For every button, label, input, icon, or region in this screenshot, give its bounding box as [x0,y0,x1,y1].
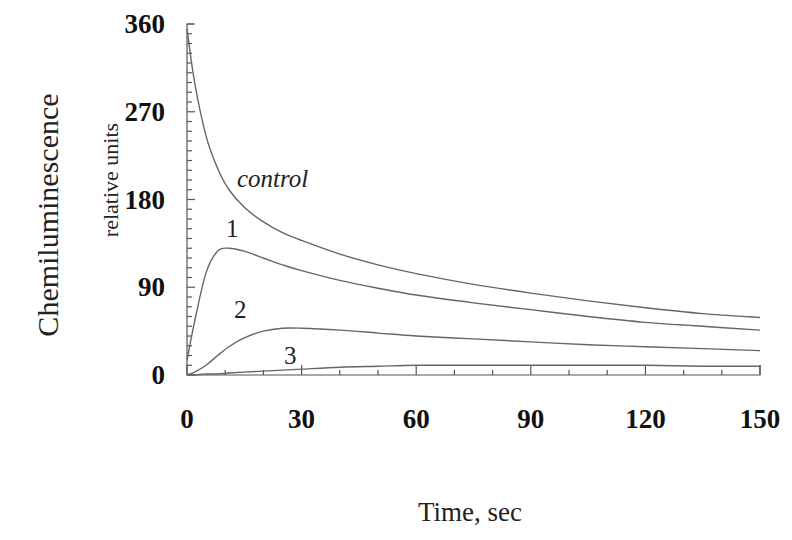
curve-1 [187,248,760,360]
curve-label-1: 1 [226,215,239,242]
x-tick-label: 30 [288,404,315,434]
curve-3 [187,365,760,375]
x-axis-label: Time, sec [418,497,522,527]
curve-label-2: 2 [234,296,247,323]
y-tick-label: 90 [138,272,165,302]
x-tick-label: 120 [625,404,666,434]
curve-2 [187,328,760,375]
x-tick-label: 0 [180,404,194,434]
y-tick-label: 180 [125,185,166,215]
axis-frame [187,24,760,375]
curves [187,29,760,375]
x-tick-label: 150 [740,404,781,434]
y-axis-label: Chemiluminescence [31,93,64,336]
axes [187,24,760,375]
y-axis-sublabel: relative units [98,123,123,237]
curve-label-control: control [237,165,308,192]
tick-labels: 0901802703600306090120150 [125,9,781,434]
curve-label-3: 3 [284,342,297,369]
chart: 0901802703600306090120150 Chemiluminesce… [0,0,792,540]
y-tick-label: 360 [125,9,166,39]
y-tick-label: 0 [152,360,166,390]
x-tick-label: 60 [403,404,430,434]
y-tick-label: 270 [125,97,166,127]
x-tick-label: 90 [517,404,544,434]
